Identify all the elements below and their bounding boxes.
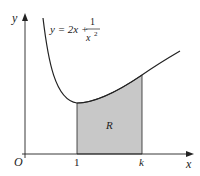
region-label: R xyxy=(105,119,113,131)
y-axis-arrow-icon xyxy=(22,13,28,21)
equation-lhs: y = 2x + xyxy=(49,23,88,35)
y-axis-label: y xyxy=(11,11,18,25)
x-axis-label: x xyxy=(185,157,192,171)
equation-numerator: 1 xyxy=(90,16,95,27)
region-r xyxy=(77,75,142,154)
graph: y x O 1 k R y = 2x + 1 x 2 xyxy=(0,0,200,176)
tick-k-label: k xyxy=(139,156,145,168)
equation-exponent: 2 xyxy=(94,30,98,38)
origin-label: O xyxy=(14,155,23,169)
tick-1-label: 1 xyxy=(74,156,80,168)
equation-denominator: x xyxy=(85,32,91,43)
